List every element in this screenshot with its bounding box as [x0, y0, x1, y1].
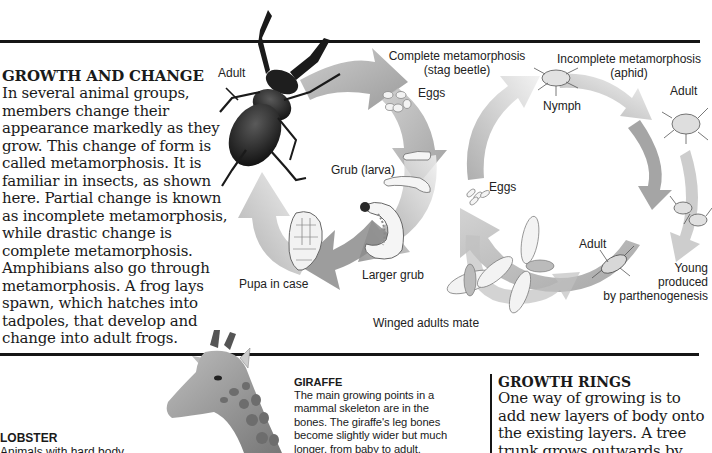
aphid-adult-image — [662, 108, 708, 144]
complete-metamorphosis-title: Complete metamorphosis (stag beetle) — [382, 49, 532, 77]
label-beetle-eggs: Eggs — [418, 86, 445, 100]
incomplete-title-line2: (aphid) — [554, 66, 704, 80]
growth-rings-heading: GROWTH RINGS — [498, 374, 712, 390]
complete-title-line2: (stag beetle) — [382, 63, 532, 77]
label-larger-grub: Larger grub — [362, 268, 424, 282]
label-winged-adults-mate: Winged adults mate — [373, 316, 479, 330]
growth-rings-section: GROWTH RINGS One way of growing is to ad… — [490, 374, 712, 453]
incomplete-title-line1: Incomplete metamorphosis — [554, 52, 704, 66]
aphid-eggs-image — [466, 188, 491, 206]
label-aphid-adult-bottom: Adult — [579, 237, 606, 251]
label-nymph: Nymph — [543, 99, 581, 113]
stag-beetle-image — [218, 10, 340, 186]
lobster-body-text: Animals with hard body — [0, 445, 124, 453]
lobster-heading: LOBSTER — [0, 431, 124, 445]
complete-title-line1: Complete metamorphosis — [382, 49, 532, 63]
giraffe-body-text: The main growing points in a mammal skel… — [294, 389, 464, 453]
label-young-produced: Young produced by parthenogenesis — [588, 261, 708, 303]
lobster-section: LOBSTER Animals with hard body — [0, 431, 124, 453]
label-grub-larva: Grub (larva) — [331, 163, 395, 177]
giraffe-heading: GIRAFFE — [294, 376, 464, 389]
growth-rings-line: One way of growing is to — [498, 390, 712, 408]
label-aphid-eggs: Eggs — [489, 180, 516, 194]
growth-rings-line: the existing layers. A tree — [498, 425, 712, 443]
section-heading: GROWTH AND CHANGE — [2, 67, 234, 85]
label-aphid-adult-top: Adult — [670, 84, 697, 98]
giraffe-image — [167, 330, 282, 453]
label-beetle-adult: Adult — [218, 66, 245, 80]
young-line2: produced — [588, 275, 708, 289]
growth-and-change-section: GROWTH AND CHANGE In several animal grou… — [2, 67, 234, 348]
young-line1: Young — [588, 261, 708, 275]
giraffe-section: GIRAFFE The main growing points in a mam… — [294, 376, 464, 453]
young-line3: by parthenogenesis — [588, 289, 708, 303]
growth-rings-line: add new layers of body onto — [498, 408, 712, 426]
incomplete-metamorphosis-title: Incomplete metamorphosis (aphid) — [554, 52, 704, 80]
section-body-text: In several animal groups, members change… — [2, 85, 234, 348]
label-pupa-in-case: Pupa in case — [239, 277, 308, 291]
growth-rings-line: trunk grows outwards by — [498, 443, 712, 453]
